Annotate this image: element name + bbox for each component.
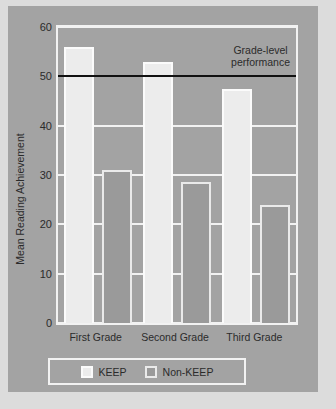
legend-label-non-keep: Non-KEEP <box>163 366 214 378</box>
y-tick-label-10: 10 <box>40 268 52 279</box>
y-tick-label-0: 0 <box>46 318 52 329</box>
bar-keep-first-grade <box>64 47 94 323</box>
grade-level-annotation-line2: performance <box>231 56 290 68</box>
x-axis-labels: First GradeSecond GradeThird Grade <box>56 331 298 349</box>
y-tick-label-40: 40 <box>40 120 52 131</box>
figure: Mean Reading Achievement Grade-level per… <box>0 0 336 409</box>
x-tick-label-third-grade: Third Grade <box>226 331 282 343</box>
gridline-30: 30 <box>58 174 296 176</box>
bar-keep-third-grade <box>222 89 252 323</box>
y-tick-label-20: 20 <box>40 219 52 230</box>
grade-level-reference-line <box>58 75 296 77</box>
chart-panel: Mean Reading Achievement Grade-level per… <box>8 6 318 392</box>
legend-swatch-keep-icon <box>81 366 93 378</box>
plot-area: Grade-level performance 0102030405060 <box>56 25 298 325</box>
legend-swatch-non-keep-icon <box>145 366 157 378</box>
legend: KEEP Non-KEEP <box>48 358 246 385</box>
grade-level-annotation: Grade-level performance <box>231 44 290 68</box>
bar-non-keep-second-grade <box>181 182 211 323</box>
legend-item-keep: KEEP <box>81 366 127 378</box>
grade-level-annotation-line1: Grade-level <box>231 44 290 56</box>
gridline-40: 40 <box>58 125 296 127</box>
legend-item-non-keep: Non-KEEP <box>145 366 214 378</box>
legend-label-keep: KEEP <box>99 366 127 378</box>
x-tick-label-second-grade: Second Grade <box>141 331 209 343</box>
y-axis-title: Mean Reading Achievement <box>14 133 26 264</box>
y-tick-label-30: 30 <box>40 170 52 181</box>
gridline-60: 60 <box>58 26 296 28</box>
bar-non-keep-first-grade <box>102 170 132 323</box>
bar-keep-second-grade <box>143 62 173 323</box>
bar-non-keep-third-grade <box>260 205 290 323</box>
y-tick-label-60: 60 <box>40 22 52 33</box>
x-tick-label-first-grade: First Grade <box>69 331 122 343</box>
y-tick-label-50: 50 <box>40 71 52 82</box>
